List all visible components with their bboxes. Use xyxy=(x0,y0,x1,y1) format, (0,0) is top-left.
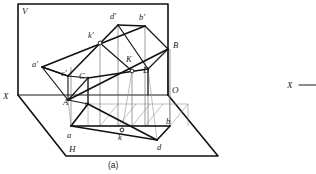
label-ground-line-left: X xyxy=(2,91,9,101)
label-point-d-prime: d' xyxy=(110,11,116,21)
front-view-segment-d-b xyxy=(118,25,145,26)
label-point-k: k xyxy=(118,132,122,142)
label-point-k-prime: k' xyxy=(88,30,94,40)
label-point-a-prime: a' xyxy=(32,59,38,69)
label-point-d: d xyxy=(157,142,162,152)
label-point-D: D xyxy=(142,65,150,75)
label-point-C: C xyxy=(79,71,85,81)
figure-canvas: V H X O A B C D K a' b' c' d' k' a b c d… xyxy=(0,0,316,174)
top-view-segment-db xyxy=(157,126,170,140)
label-point-c-prime: c' xyxy=(61,68,67,78)
label-point-A: A xyxy=(62,97,69,107)
label-point-K: K xyxy=(125,54,133,64)
label-vertical-plane: V xyxy=(22,6,29,16)
label-point-b-prime: b' xyxy=(139,12,145,22)
intersection-node-K xyxy=(130,69,134,73)
label-horizontal-plane: H xyxy=(68,144,76,154)
label-adjacent-ground-line: X xyxy=(286,80,293,90)
label-point-B: B xyxy=(173,40,178,50)
label-point-a: a xyxy=(67,130,71,140)
projection-figure: V H X O A B C D K a' b' c' d' k' a b c d… xyxy=(0,0,316,174)
label-origin: O xyxy=(172,85,179,95)
label-point-c: c xyxy=(85,98,89,108)
adjacent-figure-fragment: X xyxy=(286,80,316,90)
figure-caption: (a) xyxy=(108,160,119,170)
label-point-b: b xyxy=(166,116,170,126)
intersection-node-k-prime xyxy=(98,41,102,45)
